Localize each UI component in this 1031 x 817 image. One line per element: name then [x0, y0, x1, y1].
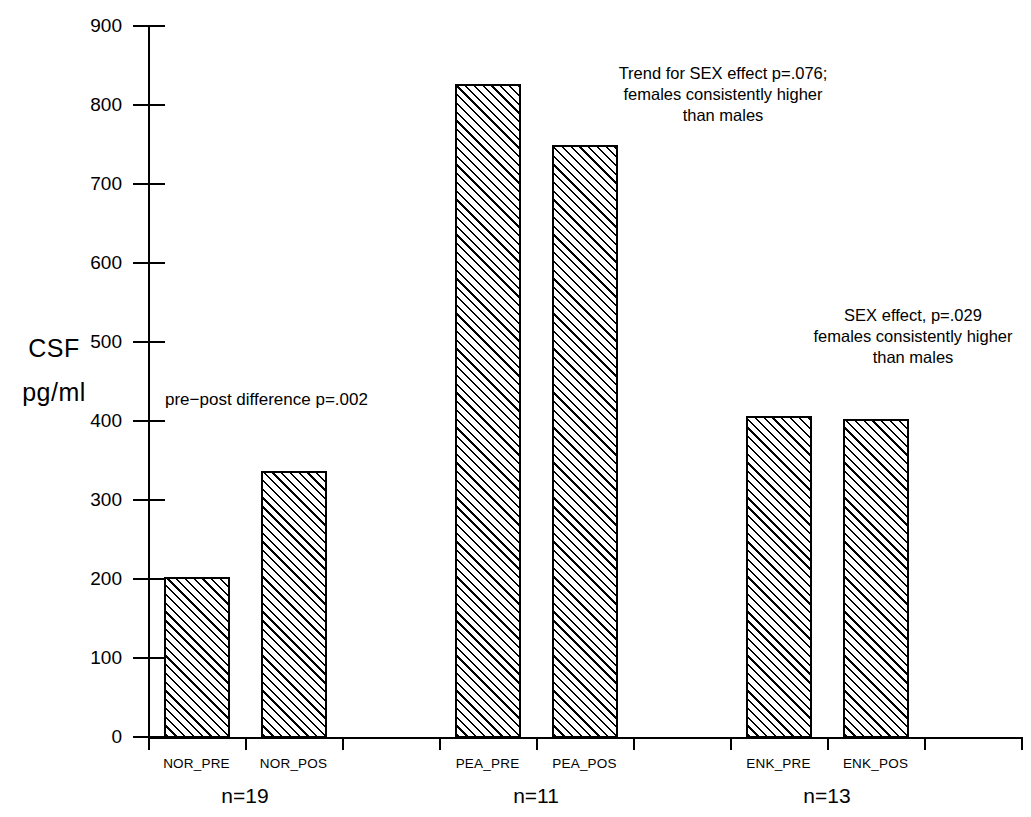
- y-axis-tick: [133, 104, 165, 106]
- y-axis-tick-label: 100: [62, 648, 122, 667]
- bar-enk-pos: [843, 419, 909, 738]
- y-axis-tick-label: 600: [62, 253, 122, 272]
- y-axis-tick-label: 500: [62, 332, 122, 351]
- x-axis-tick: [439, 737, 441, 750]
- group-sample-size-label: n=19: [165, 785, 325, 807]
- x-axis-category-label: ENK_POS: [827, 757, 924, 771]
- x-axis-tick: [148, 737, 150, 750]
- group-sample-size-label: n=13: [747, 785, 907, 807]
- y-axis-tick-label: 700: [62, 174, 122, 193]
- x-axis-category-label: NOR_PRE: [148, 757, 245, 771]
- x-axis-tick: [827, 737, 829, 750]
- y-axis-tick: [133, 499, 165, 501]
- y-axis-tick-label: 400: [62, 411, 122, 430]
- y-axis-tick: [133, 25, 165, 27]
- y-axis-tick: [133, 657, 165, 659]
- bar-pea-pos: [552, 145, 618, 739]
- bar-pea-pre: [455, 84, 521, 738]
- y-axis-tick-label: 900: [62, 16, 122, 35]
- x-axis-category-label: ENK_PRE: [730, 757, 827, 771]
- y-axis-tick: [133, 262, 165, 264]
- y-axis-tick: [133, 578, 165, 580]
- x-axis-tick: [730, 737, 732, 750]
- x-axis-tick: [536, 737, 538, 750]
- y-axis-tick: [133, 341, 165, 343]
- x-axis-tick: [924, 737, 926, 750]
- y-axis-tick-label: 300: [62, 490, 122, 509]
- y-axis-tick: [133, 183, 165, 185]
- y-axis-tick: [133, 420, 165, 422]
- group-sample-size-label: n=11: [456, 785, 616, 807]
- pea-annotation: Trend for SEX effect p=.076; females con…: [578, 63, 868, 126]
- x-axis-category-label: PEA_POS: [536, 757, 633, 771]
- x-axis-category-label: NOR_POS: [245, 757, 342, 771]
- chart-figure: CSF pg/ml 9008007006005004003002001000 N…: [0, 0, 1031, 817]
- bar-nor-pos: [261, 471, 327, 738]
- x-axis-tick: [245, 737, 247, 750]
- y-axis-tick-label: 200: [62, 569, 122, 588]
- bar-enk-pre: [746, 416, 812, 738]
- x-axis-tick: [342, 737, 344, 750]
- x-axis-category-label: PEA_PRE: [439, 757, 536, 771]
- y-axis-tick-label: 0: [62, 727, 122, 746]
- bar-nor-pre: [164, 577, 230, 738]
- enk-annotation: SEX effect, p=.029 females consistently …: [795, 305, 1031, 368]
- x-axis-tick: [633, 737, 635, 750]
- nor-annotation: pre−post difference p=.002: [165, 390, 465, 410]
- y-axis-line: [148, 26, 150, 739]
- x-axis-tick: [1021, 737, 1023, 750]
- y-axis-tick-label: 800: [62, 95, 122, 114]
- y-axis-title-line2: pg/ml: [6, 370, 102, 414]
